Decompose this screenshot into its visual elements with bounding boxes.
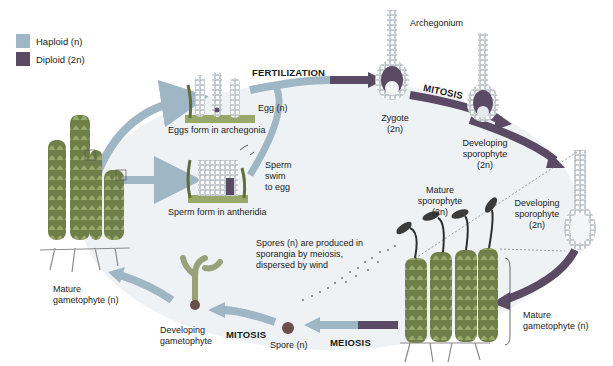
label-mature-sporophyte-1: Mature <box>415 185 465 196</box>
spore-illustration <box>282 322 294 334</box>
archegonium-zygote-illustration <box>375 10 409 100</box>
developing-sporophyte-illustration-1 <box>467 33 499 122</box>
process-meiosis: MEIOSIS <box>330 337 371 348</box>
moss-life-cycle-diagram <box>0 0 613 366</box>
label-dev-gametophyte-2: gametophyte <box>160 336 212 347</box>
label-dev-sporophyte-a-1: Developing <box>460 138 510 149</box>
legend: Haploid (n) Diploid (2n) <box>16 32 85 68</box>
label-spore: Spore (n) <box>270 340 308 351</box>
label-dev-sporophyte-b-3: (2n) <box>512 220 562 231</box>
label-dev-sporophyte-b-2: sporophyte <box>512 209 562 220</box>
legend-label-diploid: Diploid (2n) <box>36 54 85 65</box>
label-sperm-form: Sperm form in antheridia <box>168 207 267 218</box>
label-mature-gametophyte-right-2: gametophyte (n) <box>523 321 589 332</box>
process-mitosis-bottom: MITOSIS <box>226 329 266 340</box>
label-dev-sporophyte-b-1: Developing <box>512 198 562 209</box>
label-mature-sporophyte-3: (2n) <box>415 207 465 218</box>
label-archegonium: Archegonium <box>410 18 463 29</box>
label-spores-2: sporangia by meiosis, <box>256 249 343 260</box>
label-zygote-2: (2n) <box>380 124 410 135</box>
label-spores-1: Spores (n) are produced in <box>256 238 363 249</box>
diploid-swatch <box>16 52 30 66</box>
label-dev-sporophyte-a-3: (2n) <box>460 160 510 171</box>
label-egg: Egg (n) <box>258 103 288 114</box>
label-dev-sporophyte-a-2: sporophyte <box>460 149 510 160</box>
label-dev-gametophyte-1: Developing <box>160 325 205 336</box>
label-spores-3: dispersed by wind <box>256 260 328 271</box>
label-zygote-1: Zygote <box>380 113 410 124</box>
haploid-swatch <box>16 34 30 48</box>
process-fertilization: FERTILIZATION <box>252 67 325 78</box>
legend-item-diploid: Diploid (2n) <box>16 50 85 68</box>
label-eggs-form: Eggs form in archegonia <box>168 125 266 136</box>
legend-label-haploid: Haploid (n) <box>36 36 82 47</box>
label-sperm-swim-2: swim <box>265 171 286 182</box>
label-mature-gametophyte-right-1: Mature <box>523 310 551 321</box>
legend-item-haploid: Haploid (n) <box>16 32 85 50</box>
label-mature-gametophyte-left-2: gametophyte (n) <box>53 295 119 306</box>
label-sperm-swim-3: to egg <box>265 182 290 193</box>
label-mature-gametophyte-left-1: Mature <box>53 284 81 295</box>
label-mature-sporophyte-2: sporophyte <box>415 196 465 207</box>
label-sperm-swim-1: Sperm <box>265 160 292 171</box>
